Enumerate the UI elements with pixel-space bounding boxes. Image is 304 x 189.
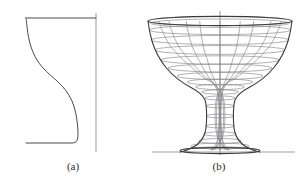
panel-b-group [148, 11, 295, 155]
surface-of-revolution-figure: (a) (b) [0, 0, 304, 189]
figure-container: (a) (b) [0, 0, 304, 189]
silhouette-right [233, 21, 292, 152]
silhouette-left [148, 21, 207, 152]
meridian-curves-group [159, 21, 281, 150]
caption-a: (a) [67, 160, 80, 173]
profile-curve-a [26, 18, 78, 143]
caption-b: (b) [213, 160, 226, 173]
panel-a-group [26, 13, 96, 152]
